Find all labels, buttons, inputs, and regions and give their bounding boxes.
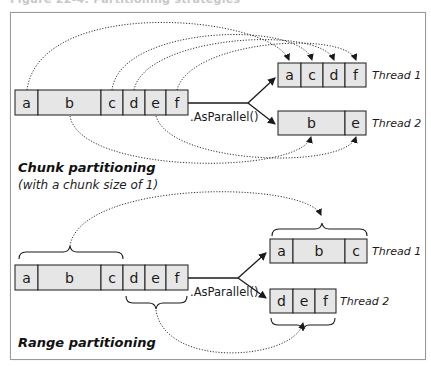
- range-thread1-row: a b c Thread 1: [270, 239, 421, 263]
- chunk-source-cell: d: [130, 95, 139, 111]
- chunk-section: a b c d e f .AsParallel() a c d f Thread…: [15, 22, 421, 192]
- chunk-thread2-cell: b: [307, 115, 316, 131]
- chunk-thread1-cell: a: [285, 67, 294, 83]
- chunk-thread1-cell: d: [330, 67, 339, 83]
- chunk-thread1-label: Thread 1: [372, 69, 421, 82]
- range-source-cell: a: [22, 270, 31, 286]
- range-title: Range partitioning: [18, 335, 156, 350]
- chunk-arc-a: [27, 22, 289, 90]
- range-arrow-thread1: [238, 253, 266, 278]
- chunk-source-cell: e: [151, 95, 160, 111]
- chunk-source-cell: b: [65, 95, 74, 111]
- range-source-cell: e: [151, 270, 160, 286]
- range-section: a b c d e f .AsParallel() a b c Thread 1: [15, 192, 421, 353]
- range-source-cell: c: [108, 270, 116, 286]
- range-thread2-brace: [271, 318, 335, 331]
- range-thread1-cell: c: [352, 243, 360, 259]
- chunk-thread2-row: b e Thread 2: [278, 111, 421, 135]
- chunk-thread1-row: a c d f Thread 1: [278, 63, 421, 87]
- range-source-cell: d: [130, 270, 139, 286]
- partitioning-diagram: a b c d e f .AsParallel() a c d f Thread…: [0, 0, 431, 366]
- range-thread2-cell: e: [300, 293, 309, 309]
- range-thread1-cell: b: [315, 243, 324, 259]
- range-arc-thread1: [70, 192, 321, 246]
- chunk-title: Chunk partitioning: [18, 160, 156, 175]
- range-source-brace-top: [19, 246, 123, 259]
- range-source-row: a b c d e f: [15, 265, 188, 290]
- chunk-source-cell: a: [22, 95, 31, 111]
- chunk-thread1-cell: c: [308, 67, 316, 83]
- range-thread1-label: Thread 1: [372, 245, 421, 258]
- range-source-cell: b: [65, 270, 74, 286]
- chunk-source-cell: c: [108, 95, 116, 111]
- chunk-thread2-label: Thread 2: [372, 117, 421, 130]
- range-arc-thread2: [156, 310, 303, 353]
- range-thread2-cell: d: [277, 293, 286, 309]
- range-asparallel-label: .AsParallel(): [190, 285, 258, 299]
- range-thread1-brace: [272, 223, 367, 236]
- range-thread2-label: Thread 2: [340, 295, 389, 308]
- chunk-source-row: a b c d e f: [15, 90, 188, 115]
- range-source-brace-bottom: [126, 296, 187, 309]
- chunk-thread2-cell: e: [351, 115, 360, 131]
- chunk-arrow-thread1: [248, 78, 275, 103]
- range-thread2-row: d e f Thread 2: [270, 289, 389, 313]
- range-thread1-cell: a: [277, 243, 286, 259]
- chunk-asparallel-label: .AsParallel(): [190, 110, 258, 124]
- chunk-subtitle: (with a chunk size of 1): [18, 178, 158, 192]
